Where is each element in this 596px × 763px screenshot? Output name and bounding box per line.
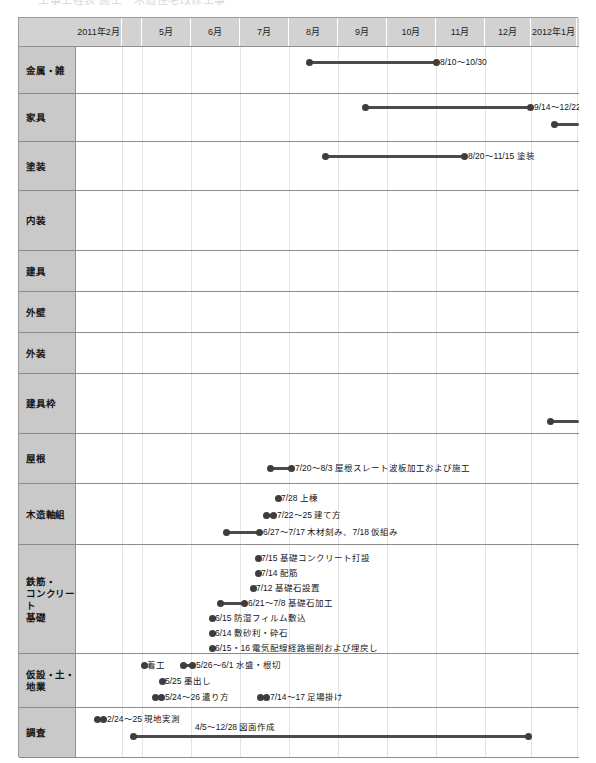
gantt-row-label: 建具 [19,251,76,292]
ghost-title-text: 工事工程表 施工 木造住宅改修工事 [38,0,226,7]
timeline-header-cell: 9月 [338,18,387,46]
gantt-row-label: 金属・雑 [19,47,76,94]
timeline-header-cell: 2012年1月 [531,18,577,46]
gantt-row-label: 外装 [19,333,76,374]
gantt-row [19,292,579,333]
gantt-row [19,47,579,94]
timeline-header-label: 1月 [561,27,575,37]
gantt-row-label: 仮設・土・ 地業 [19,654,76,708]
timeline-header-cell: 8月 [289,18,338,46]
gantt-row-label-text: 建具枠 [26,398,55,410]
timeline-header-label: 11月 [451,27,469,37]
gantt-row-label-text: 屋根 [26,453,46,465]
gantt-row-label: 塗装 [19,142,76,191]
timeline-header-cell: 7月 [240,18,289,46]
gantt-row-label-text: 仮設・土・ 地業 [26,669,75,693]
gantt-row-label-text: 金属・雑 [26,65,65,77]
gantt-row-label: 外壁 [19,292,76,333]
gantt-row [19,142,579,191]
gantt-row [19,374,579,434]
gantt-row-label-text: 建具 [26,266,46,278]
gantt-chart: 2011年2月5月6月7月8月9月10月11月12月2012年1月 8/10〜1… [18,17,578,757]
timeline-header-cell: 5月 [142,18,191,46]
gantt-row [19,484,579,545]
gantt-row-label: 鉄筋・ コンクリート 基礎 [19,545,76,654]
timeline-header-label: 9月 [355,27,369,37]
gantt-row-label: 建具枠 [19,374,76,434]
gantt-row-label: 調査 [19,708,76,758]
gantt-row-label: 木造軸組 [19,484,76,545]
timeline-header-label: 2月 [106,27,120,37]
cut-off-title-strip: 工事工程表 施工 木造住宅改修工事 [0,0,596,14]
timeline-header-cell: 10月 [387,18,436,46]
gantt-row [19,434,579,484]
timeline-header-cell: 2011年2月 [76,18,122,46]
timeline-header-cell: 6月 [191,18,240,46]
timeline-header-label: 2012年 [532,27,561,37]
gantt-row [19,708,579,758]
gantt-row [19,94,579,142]
gantt-row-label-text: 木造軸組 [26,509,65,521]
timeline-header-label: 2011年 [77,27,105,37]
timeline-header-cell: 12月 [485,18,531,46]
gantt-row-label-text: 家具 [26,112,46,124]
timeline-header: 2011年2月5月6月7月8月9月10月11月12月2012年1月 [19,18,579,47]
timeline-header-label: 5月 [159,27,173,37]
gantt-row-label-text: 外壁 [26,307,46,319]
gantt-row [19,333,579,374]
timeline-header-label: 8月 [306,27,320,37]
gantt-row-label: 屋根 [19,434,76,484]
gantt-row-label-text: 鉄筋・ コンクリート 基礎 [26,576,76,624]
timeline-header-label: 7月 [257,27,271,37]
gantt-row-label: 家具 [19,94,76,142]
gantt-row [19,654,579,708]
timeline-header-cell [122,18,142,46]
timeline-header-label: 6月 [208,27,222,37]
gantt-row-label: 内装 [19,191,76,251]
timeline-header-label: 12月 [498,27,517,37]
gantt-row-label-text: 塗装 [26,161,46,173]
gantt-row-label-text: 内装 [26,215,46,227]
gantt-row-label-text: 外装 [26,348,46,360]
timeline-header-label: 10月 [401,27,420,37]
gantt-row [19,191,579,251]
gantt-row-label-text: 調査 [26,727,46,739]
gantt-row [19,545,579,654]
timeline-header-cell: 11月 [436,18,485,46]
gantt-row [19,251,579,292]
